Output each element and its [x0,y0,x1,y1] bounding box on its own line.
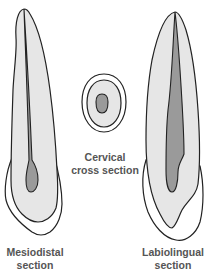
labiolingual-label-line2: section [136,259,210,272]
labiolingual-section-drawing [143,12,203,240]
cervical-label: Cervical cross section [64,151,146,177]
cervical-label-line1: Cervical [64,151,146,164]
labiolingual-label: Labiolingual section [136,246,210,272]
cervical-pulp [96,94,108,113]
mesiodistal-section-drawing [5,9,62,235]
cervical-label-line2: cross section [64,164,146,177]
labiolingual-label-line1: Labiolingual [136,246,210,259]
tooth-sections-figure [0,0,210,276]
mesiodistal-label: Mesiodistal section [2,246,68,272]
cervical-cross-section-drawing [82,74,126,132]
mesiodistal-label-line1: Mesiodistal [2,246,68,259]
mesiodistal-label-line2: section [2,259,68,272]
